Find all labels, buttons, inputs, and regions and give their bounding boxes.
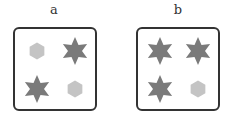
cell-b-3 [178, 69, 218, 109]
cell-b-0 [140, 31, 180, 71]
panel-b [136, 27, 220, 111]
cell-a-2 [17, 69, 57, 109]
label-a: a [44, 2, 64, 17]
star-icon [22, 74, 52, 104]
cell-b-2 [140, 69, 180, 109]
star-icon [60, 36, 90, 66]
hexagon-icon [183, 74, 213, 104]
cell-a-3 [55, 69, 95, 109]
hexagon-icon [22, 36, 52, 66]
cell-a-0 [17, 31, 57, 71]
label-b: b [168, 2, 188, 17]
cell-a-1 [55, 31, 95, 71]
star-icon [145, 74, 175, 104]
panel-a [13, 27, 97, 111]
star-icon [183, 36, 213, 66]
star-icon [145, 36, 175, 66]
hexagon-icon [60, 74, 90, 104]
cell-b-1 [178, 31, 218, 71]
